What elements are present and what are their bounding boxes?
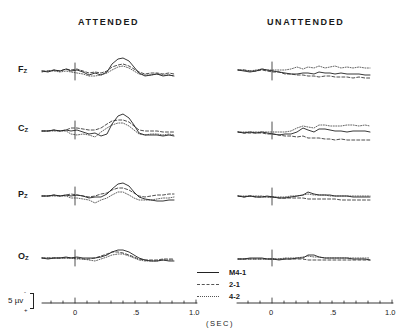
attended-tick-0: 0 (73, 308, 77, 317)
legend-item-m4-1: M4-1 (197, 267, 246, 277)
dashed-line-swatch (197, 284, 219, 285)
attended-panel (42, 58, 197, 303)
attended-tick-0-5: .5 (133, 308, 139, 317)
legend-item-4-2: 4-2 (197, 291, 240, 301)
scale-minus: - (24, 289, 26, 295)
unattended-tick-0-5: .5 (330, 308, 336, 317)
unattended-tick-1-0: 1.0 (385, 308, 395, 317)
scale-bracket (30, 293, 34, 309)
unattended-panel (237, 62, 393, 303)
voltage-scale-bar: 5 µv - + (8, 296, 23, 305)
dotted-line-swatch (197, 296, 219, 297)
scale-label: 5 µv (8, 296, 23, 305)
scale-plus: + (24, 307, 28, 313)
attended-tick-1-0: 1.0 (189, 308, 199, 317)
legend-item-2-1: 2-1 (197, 279, 240, 289)
solid-line-swatch (197, 272, 219, 273)
unattended-tick-0: 0 (269, 308, 273, 317)
time-axis-unit: (SEC) (206, 319, 234, 328)
